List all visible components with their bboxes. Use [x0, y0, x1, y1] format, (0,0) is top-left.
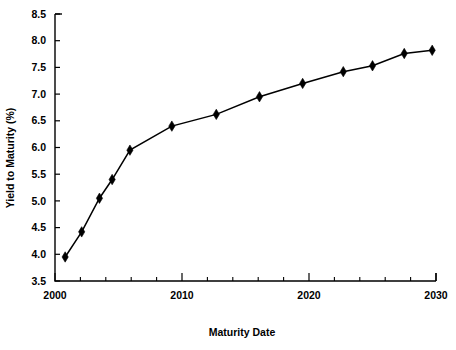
series-line	[65, 50, 432, 257]
x-tick-label: 2030	[424, 289, 448, 301]
data-point-markers	[62, 45, 435, 262]
data-point-marker	[429, 45, 435, 55]
y-tick-label: 6.0	[31, 141, 46, 153]
y-tick-label: 4.0	[31, 248, 46, 260]
data-series	[65, 50, 432, 257]
y-axis-ticks	[55, 14, 60, 281]
y-tick-label: 3.5	[31, 275, 46, 287]
y-axis-tick-labels: 3.54.04.55.05.56.06.57.07.58.08.5	[31, 8, 46, 287]
y-tick-label: 7.5	[31, 61, 46, 73]
y-tick-label: 4.5	[31, 221, 46, 233]
x-axis-title: Maturity Date	[209, 326, 276, 338]
y-tick-label: 5.5	[31, 168, 46, 180]
yield-curve-chart: 3.54.04.55.05.56.06.57.07.58.08.5 200020…	[0, 0, 456, 350]
y-tick-label: 5.0	[31, 195, 46, 207]
y-tick-label: 8.5	[31, 8, 46, 20]
data-point-marker	[300, 78, 306, 88]
x-tick-label: 2010	[170, 289, 194, 301]
data-point-marker	[340, 66, 346, 76]
x-tick-label: 2000	[43, 289, 67, 301]
data-point-marker	[213, 109, 219, 119]
y-tick-label: 8.0	[31, 34, 46, 46]
x-axis-ticks	[55, 273, 436, 281]
y-tick-label: 6.5	[31, 114, 46, 126]
data-point-marker	[369, 61, 375, 71]
data-point-marker	[401, 48, 407, 58]
data-point-marker	[169, 121, 175, 131]
y-axis-title: Yield to Maturity (%)	[4, 108, 16, 209]
axes	[55, 14, 436, 281]
axis-spine	[55, 14, 436, 281]
y-tick-label: 7.0	[31, 88, 46, 100]
x-axis-tick-labels: 2000201020202030	[43, 289, 448, 301]
chart-plot-area: 3.54.04.55.05.56.06.57.07.58.08.5 200020…	[0, 0, 456, 350]
x-tick-label: 2020	[297, 289, 321, 301]
data-point-marker	[256, 92, 262, 102]
